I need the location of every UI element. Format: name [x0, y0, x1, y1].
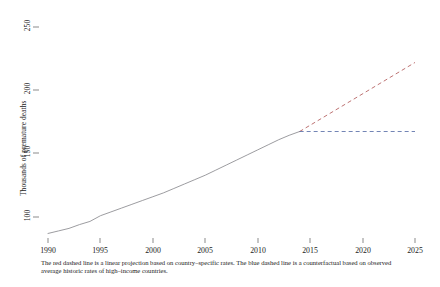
plot-area [0, 0, 440, 287]
series-projection-line [300, 62, 415, 131]
series-observed-line [48, 132, 300, 234]
x-axis-ticks [48, 238, 415, 243]
y-axis-ticks [33, 27, 39, 217]
chart-figure: Thousands of premature deaths 250 200 15… [0, 0, 440, 287]
chart-caption: The red dashed line is a linear projecti… [41, 259, 403, 276]
